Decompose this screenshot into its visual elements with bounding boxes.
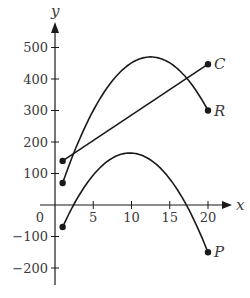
y-tick-label: 100 [23,166,48,181]
y-axis-label: y [50,2,60,20]
y-tick-label: 500 [23,40,48,55]
origin-label: 0 [36,210,44,225]
chart-container: xy05101520500400300200100−100−200 CRP [0,0,250,298]
series-p-end-point [205,249,211,255]
labels: CRP [213,55,226,261]
series-r-line [63,57,208,183]
x-axis-arrow-icon [222,201,232,209]
y-tick-label: −100 [12,229,48,244]
series-r-label: R [213,102,225,120]
series-group [59,57,211,256]
series-c-label: C [214,55,226,73]
series-r-start-point [59,180,65,186]
y-tick-label: 400 [23,72,48,87]
x-tick-label: 10 [123,210,140,225]
series-r-end-point [205,107,211,113]
x-axis-label: x [236,196,245,214]
y-tick-label: −200 [12,261,48,276]
series-c-start-point [59,158,65,164]
series-p-line [63,153,208,253]
y-tick-label: 300 [23,103,48,118]
series-c-line [63,64,208,161]
line-chart: xy05101520500400300200100−100−200 CRP [0,0,250,298]
series-c-end-point [205,61,211,67]
y-tick-label: 200 [23,135,48,150]
y-axis-arrow-icon [51,22,59,33]
x-tick-label: 20 [200,210,217,225]
x-tick-label: 5 [89,210,97,225]
axes: xy05101520500400300200100−100−200 [12,2,245,285]
series-p-start-point [59,224,65,230]
series-p-label: P [213,243,225,261]
x-tick-label: 15 [161,210,178,225]
